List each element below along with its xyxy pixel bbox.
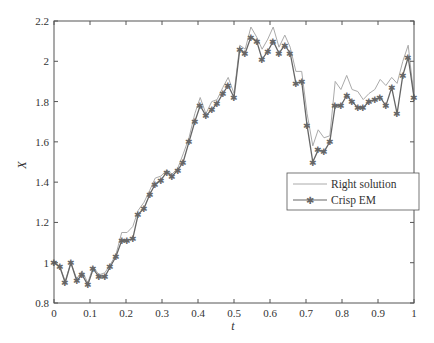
star-marker-icon: ✱: [286, 49, 294, 59]
star-marker-icon: ✱: [78, 270, 86, 280]
x-tick-label: 0: [51, 307, 57, 319]
star-marker-icon: ✱: [253, 37, 261, 47]
star-marker-icon: ✱: [106, 262, 114, 272]
star-marker-icon: ✱: [399, 71, 407, 81]
x-axis-label: t: [231, 319, 235, 333]
star-marker-icon: ✱: [337, 101, 345, 111]
series-layer: ✱✱✱✱✱✱✱✱✱✱✱✱✱✱✱✱✱✱✱✱✱✱✱✱✱✱✱✱✱✱✱✱✱✱✱✱✱✱✱✱…: [50, 27, 418, 290]
star-marker-icon: ✱: [224, 81, 232, 91]
y-tick-label: 1: [44, 257, 50, 269]
y-tick-label: 2: [44, 55, 50, 67]
x-tick-label: 0.5: [227, 307, 241, 319]
star-marker-icon: ✱: [320, 147, 328, 157]
star-marker-icon: ✱: [179, 158, 187, 168]
star-marker-icon: ✱: [241, 49, 249, 59]
star-marker-icon: ✱: [101, 272, 109, 282]
star-marker-icon: ✱: [56, 262, 64, 272]
star-marker-icon: ✱: [112, 252, 120, 262]
star-marker-icon: ✱: [230, 93, 238, 103]
legend-label-right-solution: Right solution: [331, 178, 397, 191]
y-tick-label: 1.2: [35, 216, 49, 228]
x-tick-label: 0.9: [371, 307, 385, 319]
star-marker-icon: ✱: [269, 37, 277, 47]
star-marker-icon: ✱: [67, 258, 75, 268]
star-marker-icon: ✱: [306, 195, 314, 206]
star-marker-icon: ✱: [388, 83, 396, 93]
x-tick-label: 0.7: [299, 307, 313, 319]
x-tick-label: 0.4: [191, 307, 205, 319]
line-chart: ✱✱✱✱✱✱✱✱✱✱✱✱✱✱✱✱✱✱✱✱✱✱✱✱✱✱✱✱✱✱✱✱✱✱✱✱✱✱✱✱…: [0, 0, 434, 343]
series-line-crisp-em: [54, 37, 414, 285]
legend-label-crisp-em: Crisp EM: [331, 194, 376, 207]
x-tick-label: 0.8: [335, 307, 349, 319]
star-marker-icon: ✱: [213, 99, 221, 109]
x-tick-label: 0.6: [263, 307, 277, 319]
star-marker-icon: ✱: [298, 77, 306, 87]
star-marker-icon: ✱: [84, 280, 92, 290]
star-marker-icon: ✱: [382, 101, 390, 111]
star-marker-icon: ✱: [61, 278, 69, 288]
star-marker-icon: ✱: [140, 204, 148, 214]
x-tick-label: 0.2: [119, 307, 133, 319]
star-marker-icon: ✱: [129, 234, 137, 244]
y-tick-label: 1.8: [35, 96, 49, 108]
star-marker-icon: ✱: [146, 190, 154, 200]
y-tick-label: 1.6: [35, 136, 49, 148]
x-tick-label: 0.1: [83, 307, 97, 319]
y-axis-label: X: [15, 161, 29, 170]
star-marker-icon: ✱: [393, 109, 401, 119]
x-tick-label: 0.3: [155, 307, 169, 319]
y-tick-label: 1.4: [35, 176, 49, 188]
star-marker-icon: ✱: [326, 137, 334, 147]
axes-frame: [54, 21, 414, 303]
series-line-right-solution: [54, 27, 414, 283]
y-tick-label: 0.8: [35, 297, 49, 309]
star-marker-icon: ✱: [191, 117, 199, 127]
star-marker-icon: ✱: [264, 47, 272, 57]
star-marker-icon: ✱: [196, 101, 204, 111]
legend: Right solution ✱ Crisp EM: [287, 173, 419, 210]
x-tick-label: 1: [411, 307, 417, 319]
star-marker-icon: ✱: [185, 137, 193, 147]
star-marker-icon: ✱: [309, 158, 317, 168]
star-marker-icon: ✱: [303, 121, 311, 131]
y-tick-label: 2.2: [35, 15, 49, 27]
